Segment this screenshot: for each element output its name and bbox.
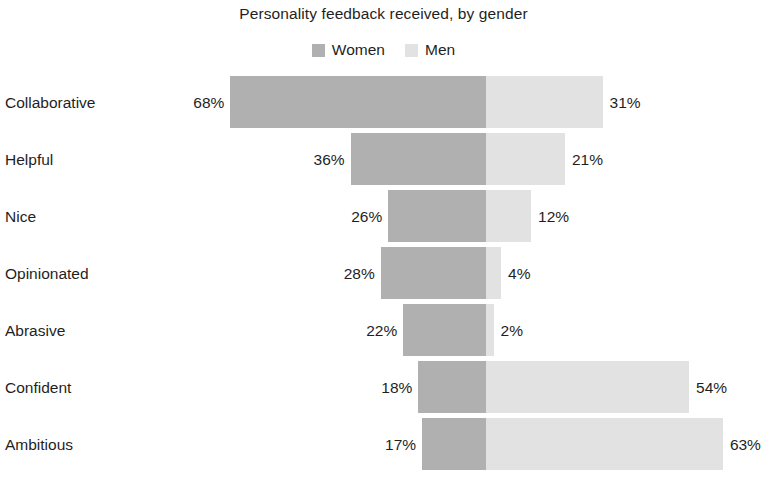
value-label-men-opinionated: 4% [508,264,530,283]
category-label-ambitious: Ambitious [5,435,73,454]
category-label-helpful: Helpful [5,150,53,169]
chart-container: Personality feedback received, by gender… [0,0,767,487]
bar-women-helpful[interactable] [351,133,486,185]
bar-men-ambitious[interactable] [486,418,723,470]
bar-women-collaborative[interactable] [230,76,486,128]
value-label-women-collaborative: 68% [193,93,224,112]
value-label-men-nice: 12% [538,207,569,226]
bar-men-collaborative[interactable] [486,76,603,128]
bar-women-opinionated[interactable] [381,247,486,299]
value-label-men-ambitious: 63% [730,435,761,454]
bar-men-confident[interactable] [486,361,689,413]
category-label-nice: Nice [5,207,36,226]
value-label-women-nice: 26% [351,207,382,226]
value-label-men-confident: 54% [696,378,727,397]
category-label-abrasive: Abrasive [5,321,65,340]
bar-women-abrasive[interactable] [403,304,486,356]
value-label-women-confident: 18% [381,378,412,397]
chart-row: Nice26%12% [0,190,767,242]
value-label-women-ambitious: 17% [385,435,416,454]
chart-row: Opinionated28%4% [0,247,767,299]
bar-women-nice[interactable] [388,190,486,242]
category-label-collaborative: Collaborative [5,93,95,112]
value-label-men-collaborative: 31% [610,93,641,112]
chart-row: Helpful36%21% [0,133,767,185]
chart-row: Abrasive22%2% [0,304,767,356]
bar-men-helpful[interactable] [486,133,565,185]
value-label-women-helpful: 36% [314,150,345,169]
chart-row: Ambitious17%63% [0,418,767,470]
bar-women-confident[interactable] [418,361,486,413]
bar-men-opinionated[interactable] [486,247,501,299]
bar-men-nice[interactable] [486,190,531,242]
chart-row: Confident18%54% [0,361,767,413]
bar-men-abrasive[interactable] [486,304,494,356]
category-label-opinionated: Opinionated [5,264,89,283]
value-label-men-abrasive: 2% [501,321,523,340]
value-label-men-helpful: 21% [572,150,603,169]
value-label-women-abrasive: 22% [366,321,397,340]
chart-row: Collaborative68%31% [0,76,767,128]
plot-area: Collaborative68%31%Helpful36%21%Nice26%1… [0,0,767,487]
bar-women-ambitious[interactable] [422,418,486,470]
category-label-confident: Confident [5,378,71,397]
value-label-women-opinionated: 28% [344,264,375,283]
